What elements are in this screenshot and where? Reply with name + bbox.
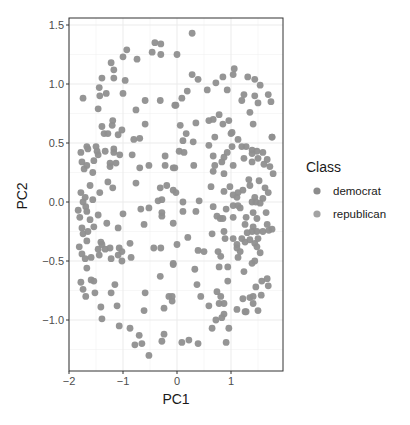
- data-point: [229, 143, 236, 150]
- data-point: [230, 235, 237, 242]
- data-point: [150, 245, 157, 252]
- data-point: [77, 149, 84, 156]
- data-point: [90, 223, 97, 230]
- data-point: [208, 183, 215, 190]
- data-point: [170, 220, 177, 227]
- x-axis: −2−101: [63, 371, 234, 387]
- data-point: [77, 279, 84, 286]
- y-axis: −1.0−0.50.00.51.01.5: [42, 19, 69, 326]
- legend-key-republican: [313, 210, 320, 217]
- data-point: [157, 273, 164, 280]
- data-point: [173, 102, 180, 109]
- data-point: [127, 240, 134, 247]
- data-point: [258, 292, 265, 299]
- data-point: [269, 134, 276, 141]
- data-point: [211, 162, 218, 169]
- data-point: [149, 49, 156, 56]
- data-point: [151, 39, 158, 46]
- data-point: [238, 97, 245, 104]
- data-point: [139, 340, 146, 347]
- data-point: [230, 162, 237, 169]
- data-point: [189, 30, 196, 37]
- data-point: [120, 90, 127, 97]
- data-point: [247, 109, 254, 116]
- data-point: [157, 51, 164, 58]
- data-point: [255, 307, 262, 314]
- data-point: [128, 254, 135, 261]
- data-point: [185, 337, 192, 344]
- data-point: [228, 130, 235, 137]
- data-point: [257, 82, 264, 89]
- data-point: [242, 221, 249, 228]
- data-point: [131, 341, 138, 348]
- data-point: [251, 92, 258, 99]
- data-point: [110, 75, 117, 82]
- data-point: [142, 97, 149, 104]
- data-point: [133, 180, 140, 187]
- data-point: [108, 289, 115, 296]
- data-point: [225, 117, 232, 124]
- data-point: [247, 182, 254, 189]
- data-point: [235, 136, 242, 143]
- data-point: [210, 116, 217, 123]
- data-point: [83, 265, 90, 272]
- data-point: [76, 243, 83, 250]
- data-point: [239, 295, 246, 302]
- data-point: [235, 254, 242, 261]
- data-point: [96, 252, 103, 259]
- data-point: [212, 317, 219, 324]
- data-point: [115, 252, 122, 259]
- data-point: [157, 245, 164, 252]
- data-point: [83, 208, 90, 215]
- data-point: [90, 278, 97, 285]
- data-point: [259, 149, 266, 156]
- data-point: [107, 163, 114, 170]
- data-point: [220, 121, 227, 128]
- data-point: [96, 189, 103, 196]
- data-point: [141, 221, 148, 228]
- data-point: [178, 95, 185, 102]
- data-point: [114, 302, 121, 309]
- legend-label-democrat: democrat: [333, 185, 382, 197]
- data-point: [120, 210, 127, 217]
- legend: Class democrat republican: [306, 159, 386, 220]
- data-point: [89, 169, 96, 176]
- data-point: [180, 199, 187, 206]
- data-point: [216, 111, 223, 118]
- data-point: [146, 352, 153, 359]
- data-point: [265, 91, 272, 98]
- data-point: [193, 120, 200, 127]
- data-point: [146, 162, 153, 169]
- data-point: [241, 91, 248, 98]
- data-point: [87, 182, 94, 189]
- data-point: [266, 163, 273, 170]
- data-point: [102, 148, 109, 155]
- data-point: [195, 340, 202, 347]
- data-point: [190, 162, 197, 169]
- data-point: [196, 197, 203, 204]
- data-point: [158, 213, 165, 220]
- data-point: [157, 97, 164, 104]
- data-point: [177, 122, 184, 129]
- data-point: [197, 293, 204, 300]
- data-point: [116, 323, 123, 330]
- data-point: [85, 228, 92, 235]
- data-point: [252, 284, 259, 291]
- data-point: [80, 286, 87, 293]
- legend-label-republican: republican: [333, 208, 386, 220]
- data-point: [112, 281, 119, 288]
- data-point: [241, 155, 248, 162]
- data-point: [171, 164, 178, 171]
- data-point: [163, 182, 170, 189]
- data-point: [103, 90, 110, 97]
- data-point: [90, 157, 97, 164]
- data-point: [88, 254, 95, 261]
- x-tick-label: −1: [117, 375, 130, 387]
- data-point: [270, 170, 277, 177]
- data-point: [136, 164, 143, 171]
- data-point: [82, 293, 89, 300]
- data-point: [237, 205, 244, 212]
- data-point: [75, 207, 82, 214]
- data-point: [243, 143, 250, 150]
- data-point: [162, 153, 169, 160]
